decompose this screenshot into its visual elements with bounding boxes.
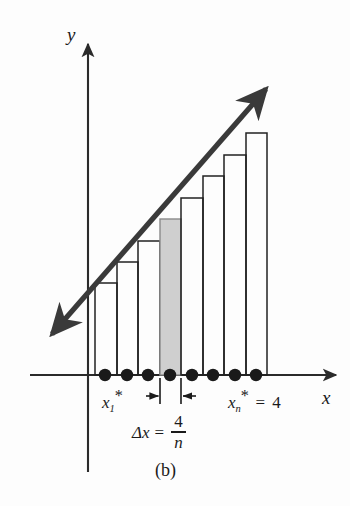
fraction-numerator: 4: [171, 413, 186, 430]
y-axis-label: y: [67, 25, 75, 44]
x1-superscript: *: [115, 387, 123, 404]
delta-x-fraction: 4 n: [171, 413, 186, 451]
riemann-rect: [246, 133, 267, 375]
xn-subscript: n: [236, 403, 241, 414]
figure-caption: (b): [155, 461, 176, 479]
function-line-group: [52, 89, 266, 334]
x1-subscript: 1: [110, 403, 115, 414]
figure-container: y x x1* xn*=4 Δx = 4 n (b): [0, 0, 350, 506]
sample-point-dot: [207, 369, 219, 381]
sample-point-dot: [142, 369, 154, 381]
sample-point-dot: [229, 369, 241, 381]
riemann-rect: [138, 241, 160, 375]
xn-equals: =: [256, 393, 266, 412]
sample-point-dot: [164, 369, 176, 381]
sample-point-dot: [121, 369, 133, 381]
riemann-rect: [95, 283, 117, 375]
xn-superscript: *: [241, 387, 249, 404]
xn-base: x: [228, 393, 236, 412]
riemann-rect: [224, 155, 246, 375]
riemann-rect: [203, 176, 224, 375]
x1-base: x: [102, 393, 110, 412]
xn-value: 4: [272, 393, 281, 412]
delta-x-symbol: Δx: [132, 424, 150, 441]
delta-x-formula: Δx = 4 n: [132, 413, 186, 451]
riemann-rect: [117, 262, 138, 375]
delta-x-equals: =: [155, 424, 165, 441]
first-sample-point-label: x1*: [102, 388, 123, 415]
sample-point-dot: [250, 369, 262, 381]
sample-point-dot: [99, 369, 111, 381]
riemann-rect: [181, 198, 203, 375]
delta-x-dimension-group: [146, 378, 196, 404]
sample-point-dot: [186, 369, 198, 381]
linear-function-line: [52, 89, 266, 334]
last-sample-point-label: xn*=4: [228, 388, 281, 415]
axes-group: [30, 44, 336, 472]
riemann-rect-highlighted: [160, 219, 181, 375]
x-axis-label: x: [322, 388, 330, 407]
fraction-denominator: n: [171, 434, 186, 451]
